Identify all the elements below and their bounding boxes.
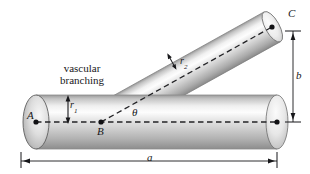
label-point-b: B bbox=[97, 126, 104, 137]
label-radius-r2-subscript: 2 bbox=[184, 63, 188, 71]
label-radius-r1: r1 bbox=[70, 100, 77, 113]
label-angle-theta: θ bbox=[132, 107, 137, 118]
label-point-a: A bbox=[27, 110, 34, 121]
annotation-line-2: branching bbox=[60, 74, 104, 86]
point-marker-B bbox=[98, 119, 103, 124]
label-radius-r1-subscript: 1 bbox=[74, 107, 78, 115]
annotation-line-1: vascular bbox=[64, 62, 101, 74]
point-marker-A bbox=[33, 119, 38, 124]
label-radius-r2: r2 bbox=[180, 56, 187, 69]
label-point-c: C bbox=[288, 8, 295, 19]
vascular-branching-figure: vascular branching A B C a b θ r1 r2 bbox=[0, 0, 310, 174]
point-marker-C bbox=[269, 24, 274, 29]
annotation-vascular-branching: vascular branching bbox=[36, 62, 128, 86]
point-marker-right-end bbox=[274, 119, 279, 124]
label-dimension-a: a bbox=[147, 152, 153, 163]
label-dimension-b: b bbox=[296, 70, 302, 81]
figure-canvas bbox=[0, 0, 310, 174]
